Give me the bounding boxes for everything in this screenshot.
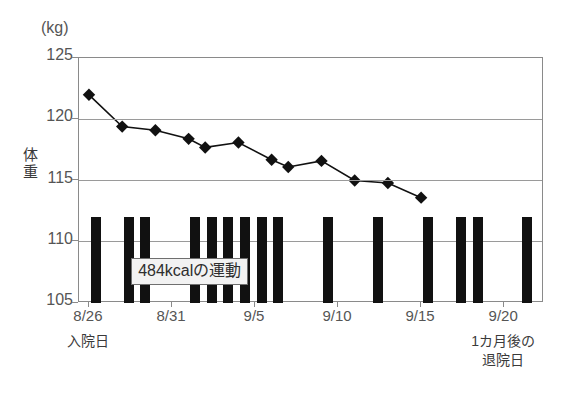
x-axis-tickmark-9-15	[420, 302, 421, 307]
weight-data-point	[282, 161, 294, 173]
x-axis-tick-8-31: 8/31	[156, 307, 185, 324]
exercise-bar	[473, 217, 483, 303]
y-axis-tickmark-125	[72, 57, 78, 58]
y-axis-tick-120: 120	[33, 107, 73, 125]
y-axis-tickmark-120	[72, 118, 78, 119]
exercise-callout-label: 484kcalの運動	[131, 258, 248, 285]
discharge-date-caption: 1カ月後の退院日	[471, 332, 535, 370]
y-axis-tick-110: 110	[33, 230, 73, 248]
exercise-bar	[273, 217, 283, 303]
weight-data-point	[415, 191, 427, 203]
discharge-caption-line-1: 1カ月後の	[471, 332, 535, 351]
discharge-caption-line-2: 退院日	[471, 351, 535, 370]
weight-line-path	[89, 95, 421, 198]
x-axis-tick-9-5: 9/5	[244, 307, 265, 324]
weight-data-point	[199, 141, 211, 153]
exercise-bar	[423, 217, 433, 303]
x-axis-tick-9-15: 9/15	[405, 307, 434, 324]
weight-data-point	[315, 155, 327, 167]
y-axis-tickmark-115	[72, 179, 78, 180]
exercise-bar	[91, 217, 101, 303]
y-axis-tick-125: 125	[33, 46, 73, 64]
x-axis-tickmark-9-10	[337, 302, 338, 307]
x-axis-tickmark-9-20	[503, 302, 504, 307]
x-axis-tickmark-8-31	[171, 302, 172, 307]
exercise-bar	[373, 217, 383, 303]
gridline-115	[79, 180, 542, 181]
y-axis-tick-105: 105	[33, 291, 73, 309]
x-axis-tick-8-26: 8/26	[73, 307, 102, 324]
weight-data-point	[149, 124, 161, 136]
exercise-bar	[257, 217, 267, 303]
weight-data-point	[232, 136, 244, 148]
y-axis-tickmark-110	[72, 240, 78, 241]
weight-chart: (kg) 体 重 1051101151201258/268/319/59/109…	[0, 0, 570, 394]
y-axis-tick-115: 115	[33, 169, 73, 187]
weight-data-point	[265, 153, 277, 165]
exercise-bar	[522, 217, 532, 303]
x-axis-tick-9-20: 9/20	[489, 307, 518, 324]
x-axis-tickmark-9-5	[254, 302, 255, 307]
x-axis-tick-9-10: 9/10	[322, 307, 351, 324]
y-axis-tickmark-105	[72, 302, 78, 303]
y-axis-unit-label: (kg)	[41, 19, 69, 37]
exercise-bar	[323, 217, 333, 303]
exercise-bar	[456, 217, 466, 303]
weight-data-point	[382, 177, 394, 189]
y-axis-title-char-1: 体	[21, 146, 39, 163]
admission-date-caption: 入院日	[67, 332, 109, 351]
gridline-120	[79, 119, 542, 120]
x-axis-tickmark-8-26	[88, 302, 89, 307]
weight-data-point	[182, 133, 194, 145]
